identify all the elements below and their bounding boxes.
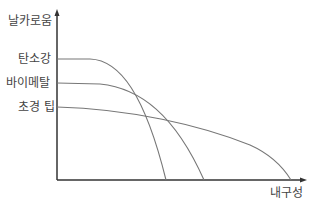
series-label-carbide-tip: 초경 팁 — [18, 100, 55, 114]
y-axis-label: 날카로움 — [8, 14, 52, 28]
x-axis-arrow-icon — [300, 178, 307, 183]
curve-carbon-steel — [57, 59, 166, 180]
series-label-carbon-steel: 탄소강 — [18, 52, 51, 66]
x-axis-label: 내구성 — [270, 186, 303, 200]
series-label-bimetal: 바이메탈 — [6, 76, 50, 90]
y-axis-arrow-icon — [55, 9, 60, 16]
curve-bimetal — [57, 83, 204, 180]
curve-carbide-tip — [57, 107, 291, 180]
